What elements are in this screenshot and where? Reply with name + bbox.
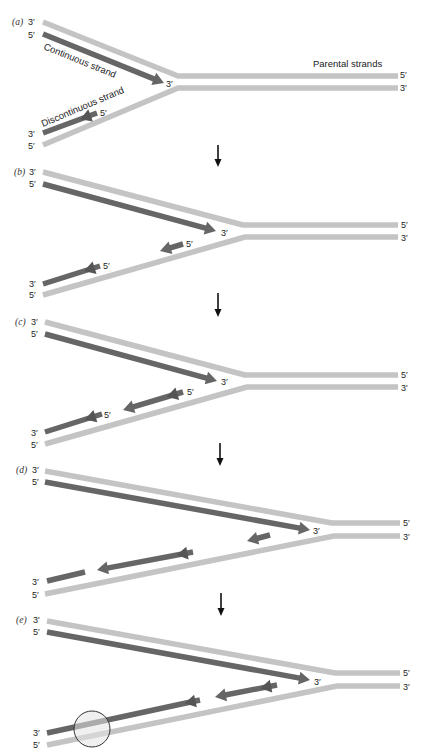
strand-end-label: 5′ xyxy=(403,668,410,678)
strand-end-label: 5′ xyxy=(28,141,35,151)
parental-strands-annotation: Parental strands xyxy=(313,58,382,69)
okazaki-fragment xyxy=(256,535,270,539)
okazaki-fragment xyxy=(47,572,85,581)
fragment-end-label: 5′ xyxy=(186,239,193,249)
replication-fork-diagram: (a) 3′ 5′ 3′ 5′ 5′ 3′ 3′ 5′ Parental str… xyxy=(0,0,425,750)
leading-strand-arrowhead xyxy=(204,222,216,235)
okazaki-fragment-arrowhead xyxy=(215,689,227,702)
strand-end-label: 5′ xyxy=(28,30,35,40)
strand-end-label: 5′ xyxy=(32,477,39,487)
fragment-end-label: 5′ xyxy=(103,261,110,271)
strand-end-label: 5′ xyxy=(401,220,408,230)
strand-end-label: 5′ xyxy=(29,179,36,189)
fragment-end-label: 5′ xyxy=(104,410,111,420)
discontinuous-strand-annotation: Discontinuous strand xyxy=(39,84,125,129)
strand-end-label: 5′ xyxy=(400,70,407,80)
strand-end-label: 5′ xyxy=(401,370,408,380)
strand-end-label: 3′ xyxy=(31,317,38,327)
strand-end-label: 3′ xyxy=(32,577,39,587)
arrow-down-icon xyxy=(215,159,222,167)
strand-end-label: 3′ xyxy=(400,83,407,93)
strand-end-label: 5′ xyxy=(33,627,40,637)
step-arrow xyxy=(217,443,224,466)
fragment-end-label: 5′ xyxy=(100,108,107,118)
strand-end-label: 5′ xyxy=(32,590,39,600)
panel-label: (c) xyxy=(15,317,26,328)
strand-end-label: 5′ xyxy=(31,329,38,339)
leading-strand xyxy=(47,632,301,678)
okazaki-fragment xyxy=(169,244,183,248)
strand-end-label: 3′ xyxy=(28,17,35,27)
strand-end-label: 3′ xyxy=(403,682,410,692)
leading-tip-label: 3′ xyxy=(221,377,228,387)
strand-end-label: 3′ xyxy=(28,129,35,139)
panel-label: (d) xyxy=(16,465,27,476)
leading-tip-label: 3′ xyxy=(313,526,320,536)
strand-end-label: 3′ xyxy=(401,383,408,393)
strand-end-label: 3′ xyxy=(29,279,36,289)
strand-end-label: 5′ xyxy=(33,740,40,750)
okazaki-fragment-arrowhead xyxy=(97,562,109,575)
strand-end-label: 3′ xyxy=(401,233,408,243)
strand-end-label: 3′ xyxy=(31,428,38,438)
leading-strand-arrowhead xyxy=(298,672,310,685)
ligation-site-highlight xyxy=(74,711,110,747)
strand-end-label: 5′ xyxy=(403,518,410,528)
strand-end-label: 3′ xyxy=(403,532,410,542)
panel-a xyxy=(43,22,398,145)
panel-label: (a) xyxy=(12,17,23,28)
leading-strand-arrowhead xyxy=(205,372,217,385)
leading-tip-label: 3′ xyxy=(314,677,321,687)
strand-end-label: 3′ xyxy=(33,615,40,625)
strand-end-label: 5′ xyxy=(29,290,36,300)
strand-end-label: 3′ xyxy=(33,728,40,738)
leading-strand xyxy=(45,482,301,528)
strand-end-label: 5′ xyxy=(31,440,38,450)
panel-label: (b) xyxy=(14,167,25,178)
step-arrow xyxy=(215,145,222,167)
arrow-down-icon xyxy=(218,608,225,616)
leading-tip-label: 3′ xyxy=(221,228,228,238)
leading-tip-label: 3′ xyxy=(166,79,173,89)
parental-strand-bottom xyxy=(45,536,400,594)
arrow-down-icon xyxy=(217,458,224,466)
panel-d xyxy=(45,471,400,594)
arrow-down-icon xyxy=(215,309,222,317)
step-arrow xyxy=(215,293,222,317)
panel-label: (e) xyxy=(16,615,27,626)
okazaki-fragment-arrowhead xyxy=(247,532,259,545)
strand-end-label: 3′ xyxy=(29,167,36,177)
fragment-end-label: 5′ xyxy=(187,387,194,397)
strand-end-label: 3′ xyxy=(32,465,39,475)
leading-strand-arrowhead xyxy=(298,522,310,535)
step-arrow xyxy=(218,593,225,616)
